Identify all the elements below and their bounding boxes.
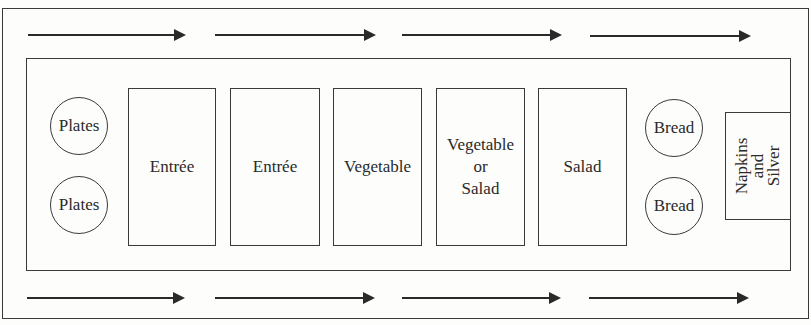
flow-arrow-bottom-4 [589, 292, 749, 304]
arrow-right-icon [364, 29, 376, 41]
plates-station-2: Plates [50, 176, 108, 234]
arrow-right-icon [173, 292, 185, 304]
napkins-label: Napkins and Silver [734, 138, 782, 195]
dish-label: Entrée [253, 156, 297, 178]
flow-arrow-top-4 [590, 30, 751, 42]
arrow-right-icon [550, 29, 562, 41]
entree-station-2: Entrée [230, 88, 320, 246]
flow-arrow-bottom-3 [402, 292, 561, 304]
plates-label: Plates [59, 195, 100, 215]
arrow-right-icon [739, 30, 751, 42]
bread-label: Bread [654, 196, 695, 216]
flow-arrow-bottom-1 [27, 292, 185, 304]
flow-arrow-bottom-2 [215, 292, 375, 304]
plates-station-1: Plates [50, 97, 108, 155]
salad-station: Salad [538, 88, 627, 246]
arrow-right-icon [174, 29, 186, 41]
flow-arrow-top-2 [215, 29, 376, 41]
arrow-right-icon [363, 292, 375, 304]
dish-label-line-2: or [473, 156, 487, 178]
bread-station-1: Bread [645, 99, 703, 157]
vegetable-or-salad-station: Vegetable or Salad [436, 88, 525, 246]
vegetable-station: Vegetable [333, 88, 422, 246]
arrow-right-icon [549, 292, 561, 304]
dish-label-line-3: Salad [462, 178, 500, 200]
dish-label: Vegetable [344, 156, 411, 178]
dish-label-line-1: Vegetable [447, 134, 514, 156]
arrow-right-icon [737, 292, 749, 304]
napkins-and-silver-station: Napkins and Silver [725, 112, 791, 220]
napkins-label-line-3: Silver [766, 138, 782, 195]
flow-arrow-top-1 [28, 29, 186, 41]
entree-station-1: Entrée [128, 88, 216, 246]
bread-label: Bread [654, 118, 695, 138]
flow-arrow-top-3 [402, 29, 562, 41]
bread-station-2: Bread [645, 177, 703, 235]
dish-label: Salad [564, 156, 602, 178]
dish-label: Entrée [150, 156, 194, 178]
plates-label: Plates [59, 116, 100, 136]
